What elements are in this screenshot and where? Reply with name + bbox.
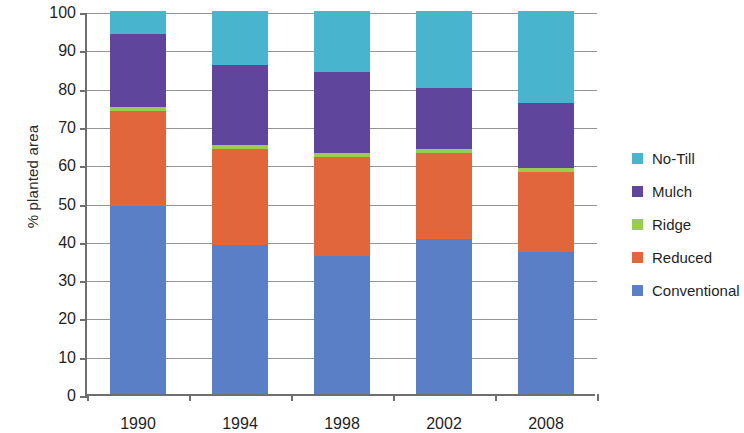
bar-segment-no-till: [212, 11, 268, 65]
legend-item-label: Conventional: [652, 282, 740, 299]
y-axis-tick-label: 20: [58, 310, 76, 328]
y-axis-tick: [80, 205, 87, 207]
legend-swatch-icon: [632, 219, 643, 230]
x-axis-tick: [291, 394, 293, 401]
y-axis-tick: [80, 90, 87, 92]
bar-segment-mulch: [314, 72, 370, 152]
x-axis-tick-label: 2002: [399, 415, 489, 433]
x-axis-tick: [495, 394, 497, 401]
y-axis-tick: [80, 13, 87, 15]
bar-segment-conventional: [314, 256, 370, 394]
bar-segment-reduced: [416, 153, 472, 239]
bar-stack: [110, 11, 166, 394]
bar-segment-conventional: [416, 239, 472, 394]
x-axis-tick: [393, 394, 395, 401]
y-axis-tick-label: 30: [58, 272, 76, 290]
bar-stack: [314, 11, 370, 394]
bar-segment-reduced: [212, 149, 268, 245]
legend-item[interactable]: Conventional: [632, 274, 740, 307]
bar-stack: [212, 11, 268, 394]
y-axis-tick: [80, 166, 87, 168]
bar-stack: [518, 11, 574, 394]
y-axis-tick-label: 60: [58, 157, 76, 175]
bar-stack: [416, 11, 472, 394]
y-axis-tick-label: 10: [58, 349, 76, 367]
x-axis-tick: [597, 394, 599, 401]
y-axis-tick-label: 90: [58, 42, 76, 60]
legend-item-label: No-Till: [652, 150, 695, 167]
bar-segment-mulch: [212, 65, 268, 145]
bar-segment-ridge: [416, 149, 472, 153]
y-axis-tick-label: 50: [58, 196, 76, 214]
legend-swatch-icon: [632, 252, 643, 263]
legend-swatch-icon: [632, 153, 643, 164]
y-axis-tick: [80, 319, 87, 321]
y-axis-title: % planted area: [24, 97, 41, 257]
y-axis-tick-label: 80: [58, 81, 76, 99]
y-axis-tick: [80, 396, 87, 398]
bar-segment-no-till: [518, 11, 574, 103]
legend-swatch-icon: [632, 285, 643, 296]
bar-segment-conventional: [518, 252, 574, 394]
bar-segment-no-till: [110, 11, 166, 34]
y-axis-tick: [80, 281, 87, 283]
bar-segment-mulch: [110, 34, 166, 107]
legend-item-label: Ridge: [652, 216, 691, 233]
y-axis-tick-label: 0: [67, 387, 76, 405]
bar-segment-reduced: [518, 172, 574, 252]
bar-segment-ridge: [518, 168, 574, 172]
legend-item-label: Reduced: [652, 249, 712, 266]
x-axis-tick: [189, 394, 191, 401]
bar-segment-ridge: [314, 153, 370, 157]
y-axis-tick-label: 40: [58, 234, 76, 252]
x-axis-tick-label: 2008: [501, 415, 591, 433]
bar-segment-ridge: [212, 145, 268, 149]
chart-legend: No-TillMulchRidgeReducedConventional: [632, 142, 740, 307]
legend-item[interactable]: Ridge: [632, 208, 740, 241]
plot-area: 0102030405060708090100199019941998200220…: [85, 13, 595, 396]
bar-segment-mulch: [416, 88, 472, 149]
bar-segment-mulch: [518, 103, 574, 168]
bar-segment-no-till: [314, 11, 370, 72]
x-axis-tick: [87, 394, 89, 401]
bar-segment-ridge: [110, 107, 166, 111]
y-axis-tick-label: 100: [49, 4, 76, 22]
bar-segment-reduced: [314, 157, 370, 257]
legend-item[interactable]: Reduced: [632, 241, 740, 274]
bar-segment-conventional: [110, 206, 166, 394]
x-axis-tick-label: 1998: [297, 415, 387, 433]
y-axis-tick: [80, 128, 87, 130]
legend-swatch-icon: [632, 186, 643, 197]
y-axis-tick: [80, 243, 87, 245]
bar-segment-no-till: [416, 11, 472, 88]
legend-item[interactable]: Mulch: [632, 175, 740, 208]
bar-segment-reduced: [110, 111, 166, 207]
legend-item-label: Mulch: [652, 183, 692, 200]
y-axis-tick: [80, 358, 87, 360]
bar-segment-conventional: [212, 245, 268, 394]
x-axis-tick-label: 1994: [195, 415, 285, 433]
y-axis-tick: [80, 51, 87, 53]
x-axis-tick-label: 1990: [93, 415, 183, 433]
legend-item[interactable]: No-Till: [632, 142, 740, 175]
y-axis-tick-label: 70: [58, 119, 76, 137]
